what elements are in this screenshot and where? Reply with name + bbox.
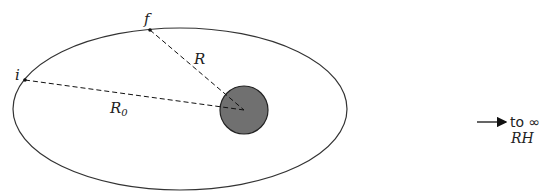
point-i-marker — [23, 78, 27, 82]
r-dashed-line — [150, 30, 244, 110]
r0-dashed-line — [25, 80, 244, 110]
r0-label: R0 — [109, 99, 128, 118]
to-infinity-label: to ∞ — [510, 114, 540, 130]
orbit-ellipse — [13, 28, 347, 190]
rh-label: RH — [510, 130, 535, 146]
r0-label-main: R — [109, 99, 121, 117]
point-i-label: i — [15, 66, 20, 84]
orbit-diagram: i f R R0 to ∞ RH — [0, 0, 550, 195]
r0-label-subscript: 0 — [121, 107, 128, 118]
point-f-label: f — [143, 10, 152, 28]
r-label: R — [193, 50, 205, 68]
point-f-marker — [148, 28, 152, 32]
